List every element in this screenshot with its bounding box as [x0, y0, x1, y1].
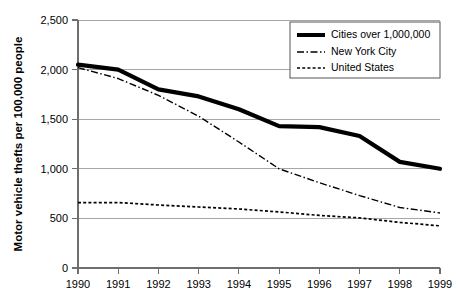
x-tick-label-1996: 1996 — [307, 278, 331, 290]
legend-label-cities-over-1000000: Cities over 1,000,000 — [331, 28, 430, 40]
y-axis-title: Motor vehicle thefts per 100,000 people — [12, 37, 24, 252]
x-tick-label-1990: 1990 — [66, 278, 90, 290]
x-tick-label-1999: 1999 — [428, 278, 452, 290]
legend-label-new-york-city: New York City — [331, 45, 397, 57]
y-tick-label-500: 500 — [50, 212, 68, 224]
x-tick-label-1995: 1995 — [267, 278, 291, 290]
series-line-new-york-city — [78, 68, 440, 213]
x-tick-marks — [78, 268, 440, 274]
x-tick-label-1997: 1997 — [347, 278, 371, 290]
y-tick-label-0: 0 — [62, 262, 68, 274]
y-tick-label-2500: 2,500 — [40, 14, 68, 26]
x-tick-labels: 1990 1991 1992 1993 1994 1995 1996 1997 … — [66, 278, 452, 290]
y-tick-label-1000: 1,000 — [40, 163, 68, 175]
y-tick-marks — [72, 20, 78, 268]
legend-label-united-states: United States — [331, 61, 394, 73]
x-tick-label-1993: 1993 — [186, 278, 210, 290]
legend: Cities over 1,000,000 New York City Unit… — [290, 22, 440, 78]
series-line-cities-over-1000000 — [78, 65, 440, 169]
chart-container: 2,500 2,000 1,500 1,000 500 0 1990 1991 … — [0, 0, 460, 307]
x-tick-label-1991: 1991 — [106, 278, 130, 290]
x-tick-label-1994: 1994 — [227, 278, 251, 290]
line-chart: 2,500 2,000 1,500 1,000 500 0 1990 1991 … — [0, 0, 460, 307]
y-tick-label-1500: 1,500 — [40, 113, 68, 125]
y-tick-label-2000: 2,000 — [40, 64, 68, 76]
y-tick-labels: 2,500 2,000 1,500 1,000 500 0 — [40, 14, 68, 274]
x-tick-label-1998: 1998 — [388, 278, 412, 290]
x-tick-label-1992: 1992 — [146, 278, 170, 290]
series-line-united-states — [78, 203, 440, 226]
